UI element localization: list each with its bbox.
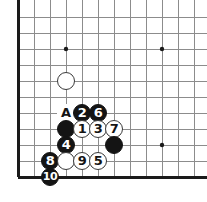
go-stone-layer: A26137489510 <box>0 0 207 202</box>
stone-move-5: 5 <box>89 152 107 170</box>
stone-white-plain <box>57 72 75 90</box>
stone-number: 1 <box>78 122 87 135</box>
stone-number: 9 <box>78 154 87 167</box>
stone-number: 5 <box>94 154 103 167</box>
stone-number: 10 <box>43 171 57 182</box>
stone-number: 3 <box>94 122 103 135</box>
stone-number: 7 <box>110 122 119 135</box>
stone-number: 8 <box>46 154 55 167</box>
stone-number: 4 <box>62 138 71 151</box>
stone-number: 2 <box>78 106 87 119</box>
stone-black-plain <box>105 136 123 154</box>
stone-number: 6 <box>94 106 103 119</box>
go-diagram: A26137489510 <box>0 0 207 202</box>
stone-move-10: 10 <box>41 168 59 186</box>
